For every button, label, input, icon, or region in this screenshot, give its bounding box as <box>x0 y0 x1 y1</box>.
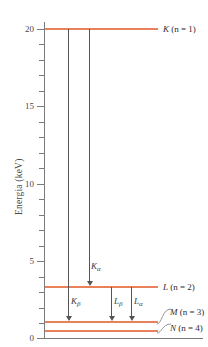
level-label-L-shell: (n = 2) <box>170 282 195 292</box>
level-label-L: L (n = 2) <box>163 282 195 292</box>
y-tick-minor <box>39 230 45 231</box>
y-tick-major-15 <box>37 106 45 107</box>
energy-level-diagram: 20 15 10 5 0 Energia (keV) Kα Kβ Lβ Lα K… <box>0 0 208 347</box>
y-tick-minor <box>39 91 45 92</box>
y-tick-minor <box>39 168 45 169</box>
y-tick-minor <box>39 323 45 324</box>
y-tick-label-15: 15 <box>18 102 34 111</box>
y-tick-minor <box>39 153 45 154</box>
y-tick-major-5 <box>37 261 45 262</box>
y-tick-label-20: 20 <box>18 25 34 34</box>
y-tick-minor <box>39 277 45 278</box>
y-tick-minor <box>39 44 45 45</box>
y-tick-major-0 <box>37 338 45 339</box>
transition-arrowhead-k-alpha <box>87 281 93 286</box>
level-label-N: N (n = 4) <box>170 323 203 333</box>
y-tick-minor <box>39 137 45 138</box>
level-label-N-shell: (n = 4) <box>178 323 203 333</box>
level-label-K: K (n = 1) <box>163 24 196 34</box>
transition-arrowhead-k-beta <box>66 316 72 321</box>
energy-level-L <box>45 286 158 288</box>
energy-level-M <box>45 321 158 323</box>
y-tick-minor <box>39 292 45 293</box>
x-axis-baseline <box>44 338 203 339</box>
y-tick-minor <box>39 75 45 76</box>
y-tick-minor <box>39 122 45 123</box>
transition-label-k-beta-sub: β <box>77 300 81 308</box>
transition-label-l-beta-sub: β <box>119 300 123 308</box>
y-axis-title: Energia (keV) <box>14 159 24 216</box>
transition-label-l-alpha: Lα <box>134 296 143 308</box>
transition-arrow-l-alpha <box>131 287 132 317</box>
level-label-K-name: K <box>163 24 169 34</box>
y-tick-minor <box>39 215 45 216</box>
transition-label-l-alpha-sub: α <box>139 300 143 308</box>
transition-arrow-k-beta <box>68 29 69 317</box>
leader-line-N <box>156 320 174 336</box>
level-label-L-name: L <box>163 282 168 292</box>
y-tick-minor <box>39 308 45 309</box>
level-label-M: M (n = 3) <box>170 307 204 317</box>
y-tick-minor <box>39 246 45 247</box>
transition-label-l-beta: Lβ <box>114 296 123 308</box>
y-tick-minor <box>39 199 45 200</box>
level-label-M-shell: (n = 3) <box>180 307 205 317</box>
transition-label-k-beta: Kβ <box>71 296 81 308</box>
level-label-K-shell: (n = 1) <box>171 24 196 34</box>
transition-arrow-k-alpha <box>89 29 90 282</box>
transition-label-k-alpha-sub: α <box>97 265 101 273</box>
y-tick-major-20 <box>37 29 45 30</box>
y-tick-label-0: 0 <box>18 334 34 343</box>
energy-level-K <box>45 28 158 30</box>
y-tick-label-5: 5 <box>18 257 34 266</box>
transition-arrowhead-l-alpha <box>129 316 135 321</box>
y-tick-major-10 <box>37 184 45 185</box>
transition-arrow-l-beta <box>111 287 112 317</box>
y-tick-minor <box>39 60 45 61</box>
energy-level-N <box>45 330 158 332</box>
transition-arrowhead-l-beta <box>109 316 115 321</box>
transition-label-k-alpha: Kα <box>91 261 101 273</box>
